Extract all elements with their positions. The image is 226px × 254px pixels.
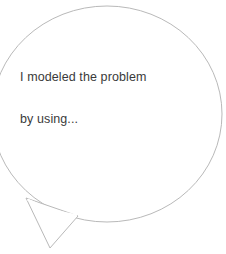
speech-text-line-2: by using... bbox=[20, 109, 180, 130]
speech-text-line-1: I modeled the problem bbox=[20, 67, 180, 88]
speech-bubble-text: I modeled the problem by using... bbox=[20, 46, 180, 151]
speech-bubble-canvas: I modeled the problem by using... bbox=[0, 0, 226, 254]
